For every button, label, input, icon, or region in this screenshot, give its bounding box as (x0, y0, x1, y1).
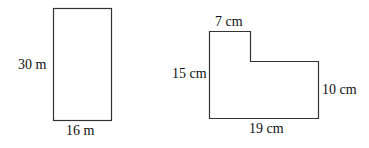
l-shape-bottom-width-label: 19 cm (249, 122, 284, 136)
rectangle-shape (54, 9, 112, 121)
l-shape-top-width-label: 7 cm (215, 15, 243, 29)
diagram-canvas: 30 m 16 m 7 cm 15 cm 10 cm 19 cm (0, 0, 369, 148)
l-shape-left-height-label: 15 cm (172, 67, 207, 81)
rectangle-width-label: 16 m (66, 124, 94, 138)
l-shape-polygon (210, 32, 319, 119)
rectangle-height-label: 30 m (18, 58, 46, 72)
l-shape-right-height-label: 10 cm (322, 83, 357, 97)
